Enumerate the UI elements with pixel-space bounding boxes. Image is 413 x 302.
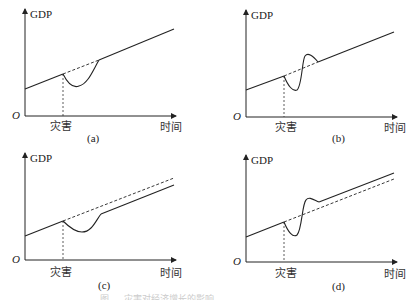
y-axis-label: GDP — [251, 154, 273, 166]
trend-before — [25, 221, 63, 236]
y-axis-label: GDP — [30, 152, 52, 164]
trend-before — [246, 76, 284, 90]
original-trend-projection — [284, 179, 394, 222]
lower-trend-after — [101, 185, 174, 214]
x-axis-label: 时间 — [160, 121, 182, 134]
origin-label: O — [12, 109, 20, 121]
event-label: 灾害 — [50, 119, 72, 133]
trend-before — [246, 222, 284, 237]
origin-label: O — [233, 110, 241, 122]
event-label: 灾害 — [50, 265, 72, 279]
y-axis-label: GDP — [251, 9, 273, 21]
panel-label: (c) — [98, 279, 111, 292]
panel-label: (d) — [332, 280, 345, 293]
event-label: 灾害 — [275, 266, 297, 280]
gdp-dip-curve — [63, 60, 99, 87]
original-trend-projection — [63, 178, 174, 221]
event-label: 灾害 — [275, 120, 297, 134]
panel-a: GDP O 灾害 时间 (a) — [12, 8, 182, 145]
y-axis-label: GDP — [30, 8, 52, 20]
x-axis-label: 时间 — [160, 267, 182, 280]
panel-d: GDP O 灾害 时间 (d) — [233, 154, 406, 293]
trend-after — [318, 32, 394, 62]
origin-label: O — [233, 255, 241, 267]
trend-before — [25, 74, 63, 89]
x-axis-label: 时间 — [384, 268, 406, 281]
gdp-dip-curve — [63, 214, 101, 232]
trend-after — [99, 29, 174, 60]
trend-projection — [284, 62, 318, 76]
higher-trend-after — [319, 173, 394, 202]
panel-label: (a) — [87, 132, 100, 145]
trend-projection — [63, 60, 99, 74]
figure-caption: 图 … 灾害对经济增长的影响 — [100, 292, 290, 300]
panel-c: GDP O 灾害 时间 (c) — [12, 152, 182, 292]
gdp-overshoot-curve — [284, 198, 319, 235]
figure-canvas: GDP O 灾害 时间 (a) GDP O 灾害 时间 (b) GDP O 灾害… — [0, 0, 413, 302]
gdp-overshoot-curve — [284, 54, 318, 90]
x-axis-label: 时间 — [384, 122, 406, 135]
panel-label: (b) — [332, 132, 345, 145]
panel-b: GDP O 灾害 时间 (b) — [233, 9, 406, 145]
origin-label: O — [12, 253, 20, 265]
